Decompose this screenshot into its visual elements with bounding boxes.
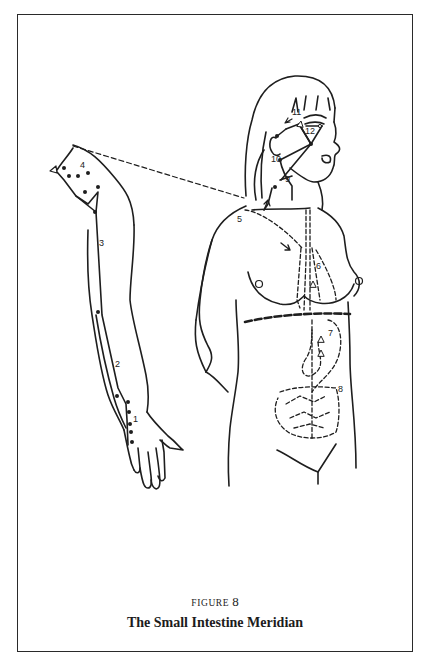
- path-triangle-icon: [318, 336, 324, 342]
- eye-point-icon: [318, 124, 321, 127]
- svg-text:10: 10: [271, 154, 281, 164]
- figure-title: The Small Intestine Meridian: [17, 615, 413, 631]
- diaphragm-line: [245, 313, 350, 322]
- svg-text:7: 7: [328, 328, 333, 338]
- path-triangle-icon: [310, 281, 316, 287]
- svg-text:1: 1: [133, 414, 138, 424]
- svg-text:5: 5: [237, 214, 242, 224]
- svg-text:4: 4: [80, 160, 85, 170]
- svg-text:2: 2: [115, 359, 120, 369]
- start-triangle-icon: [50, 166, 57, 173]
- svg-text:6: 6: [316, 261, 321, 271]
- torso-illustration: [195, 206, 362, 486]
- figure-number-value: 8: [232, 594, 239, 609]
- arm-meridian-path: [57, 172, 128, 445]
- svg-text:8: 8: [338, 384, 343, 394]
- figure-number: FIGURE 8: [17, 594, 413, 610]
- svg-text:12: 12: [305, 126, 315, 136]
- svg-text:3: 3: [99, 238, 104, 248]
- internal-meridian-path: [245, 210, 341, 440]
- svg-text:11: 11: [292, 107, 301, 117]
- arrow-down-icon: [281, 243, 290, 250]
- arm-acupoints: [62, 166, 134, 444]
- arm-to-neck-connection: [73, 146, 244, 198]
- arrow-left-icon: [285, 118, 292, 123]
- figure-label: FIGURE: [191, 598, 229, 608]
- svg-text:9: 9: [285, 174, 290, 184]
- head-illustration: [245, 76, 339, 210]
- meridian-diagram: 1 2 3 4 5 6 7 8 9 10 11 12: [0, 0, 433, 666]
